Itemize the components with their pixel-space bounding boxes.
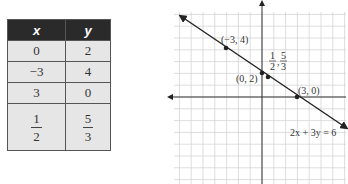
equation-label: 2x + 3y = 6 <box>290 127 336 138</box>
label-frac-y-num: 5 <box>281 50 286 61</box>
coordinate-graph: (−3, 4) (0, 2) (3, 0) 1 2 , 5 3 2x + 3y … <box>0 0 348 184</box>
label-frac-comma: , <box>277 56 280 67</box>
label-frac-x-den: 2 <box>270 61 275 72</box>
point-neg3-4 <box>224 46 229 51</box>
label-frac-y-den: 3 <box>281 61 286 72</box>
point-0-2 <box>260 71 265 76</box>
label-frac-x-num: 1 <box>270 50 275 61</box>
point-half-fivethirds <box>266 75 271 80</box>
label-3-0: (3, 0) <box>298 85 320 97</box>
label-0-2: (0, 2) <box>236 73 258 85</box>
grid-lines <box>174 12 346 184</box>
label-neg3-4: (−3, 4) <box>221 34 248 46</box>
